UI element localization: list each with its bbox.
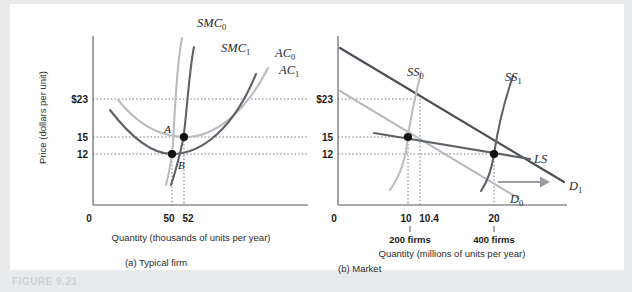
label-ac1: AC1: [278, 63, 299, 79]
panel-a-xtick-52: 52: [182, 213, 194, 224]
curve-ac0: [118, 68, 268, 137]
figure-caption-id: FIGURE 9.21: [12, 276, 78, 287]
curve-d1: [340, 48, 564, 182]
panel-b-xtick-20: 20: [488, 213, 500, 224]
panel-a-x-axis-title: Quantity (thousands of units per year): [112, 232, 271, 243]
panel-a-ytick-12: 12: [77, 149, 89, 160]
point-b-marker: [168, 150, 176, 158]
point-b-label: B: [178, 159, 185, 171]
panel-b-x-axis-title: Quantity (millions of units per year): [379, 248, 526, 259]
demand-shift-arrow-head: [540, 177, 550, 188]
panel-b-xtick-104: 10.4: [419, 213, 439, 224]
panel-b-origin: 0: [331, 213, 337, 224]
panel-b-caption: (b) Market: [338, 263, 382, 274]
curve-ss1: [481, 76, 513, 191]
label-d1: D1: [568, 179, 582, 195]
panel-a-y-axis-title: Price (dollars per unit): [37, 71, 48, 164]
firms-label-400: 400 firms: [473, 234, 515, 245]
curve-d0: [340, 91, 518, 198]
point-e1-marker: [490, 150, 498, 158]
point-a-marker: [180, 133, 188, 141]
label-ss1: SS1: [505, 70, 522, 86]
label-d0: D0: [509, 192, 523, 208]
panel-b-xtick-10: 10: [400, 213, 412, 224]
panel-a-origin: 0: [86, 213, 92, 224]
panel-a-ytick-23: $23: [71, 94, 88, 105]
panel-a-typical-firm: SMC0 SMC1 AC0 AC1 A B $23 15 12 0 50 52 …: [6, 4, 316, 276]
panel-b-ytick-23: $23: [316, 94, 333, 105]
label-smc1: SMC1: [221, 41, 250, 57]
label-ac0: AC0: [274, 46, 295, 62]
curve-ls: [374, 133, 530, 159]
figure-root: SMC0 SMC1 AC0 AC1 A B $23 15 12 0 50 52 …: [0, 0, 632, 292]
label-ss0: SS0: [407, 65, 424, 81]
panel-b-ytick-15: 15: [322, 132, 334, 143]
firms-label-200: 200 firms: [389, 234, 431, 245]
panel-a-xtick-50: 50: [163, 213, 175, 224]
panel-b-ytick-12: 12: [322, 149, 334, 160]
point-a-label: A: [163, 123, 171, 135]
panel-b-market: SS0 SS1 D0 D1 LS $23 15 12 0 10 10.4 20 …: [302, 4, 632, 276]
panel-a-ytick-15: 15: [77, 132, 89, 143]
panel-a-caption: (a) Typical firm: [125, 257, 187, 268]
label-ls: LS: [533, 152, 548, 166]
point-e0-marker: [404, 133, 412, 141]
label-smc0: SMC0: [197, 16, 226, 32]
